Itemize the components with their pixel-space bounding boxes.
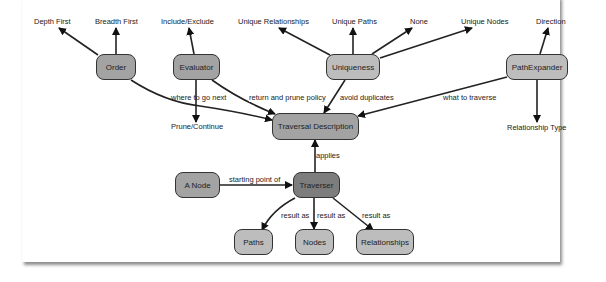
edge-label-what-to-traverse: what to traverse	[443, 93, 496, 102]
edge-label-applies: applies	[316, 151, 340, 160]
label-depth-first: Depth First	[34, 17, 71, 26]
label-relationship-type: Relationship Type	[507, 123, 566, 132]
label-direction: Direction	[536, 17, 566, 26]
node-a-node[interactable]: A Node	[175, 172, 220, 198]
node-paths[interactable]: Paths	[234, 229, 273, 255]
label-breadth-first: Breadth First	[95, 17, 138, 26]
node-nodes[interactable]: Nodes	[295, 229, 334, 255]
edge-label-avoid-duplicates: avoid duplicates	[340, 93, 394, 102]
edge-label-result-as-paths: result as	[281, 211, 309, 220]
node-traversal-description[interactable]: Traversal Description	[272, 113, 359, 140]
label-include-exclude: Include/Exclude	[161, 17, 214, 26]
node-path-expander[interactable]: PathExpander	[506, 54, 568, 80]
label-unique-relationships: Unique Relationships	[238, 17, 309, 26]
node-relationships[interactable]: Relationships	[356, 229, 414, 255]
edge-label-starting-point-of: starting point of	[229, 175, 280, 184]
edge-label-return-and-prune-policy: return and prune policy	[249, 93, 326, 102]
edge-label-where-to-go-next: where to go next	[171, 93, 226, 102]
label-none: None	[410, 17, 428, 26]
label-unique-paths: Unique Paths	[332, 17, 377, 26]
edge-label-result-as-relationships: result as	[362, 211, 390, 220]
edge-label-result-as-nodes: result as	[317, 211, 345, 220]
node-traverser[interactable]: Traverser	[293, 172, 340, 198]
label-unique-nodes: Unique Nodes	[461, 17, 509, 26]
node-evaluator[interactable]: Evaluator	[173, 54, 220, 80]
node-uniqueness[interactable]: Uniqueness	[326, 54, 380, 80]
label-prune-continue: Prune/Continue	[171, 122, 223, 131]
node-order[interactable]: Order	[96, 54, 136, 80]
